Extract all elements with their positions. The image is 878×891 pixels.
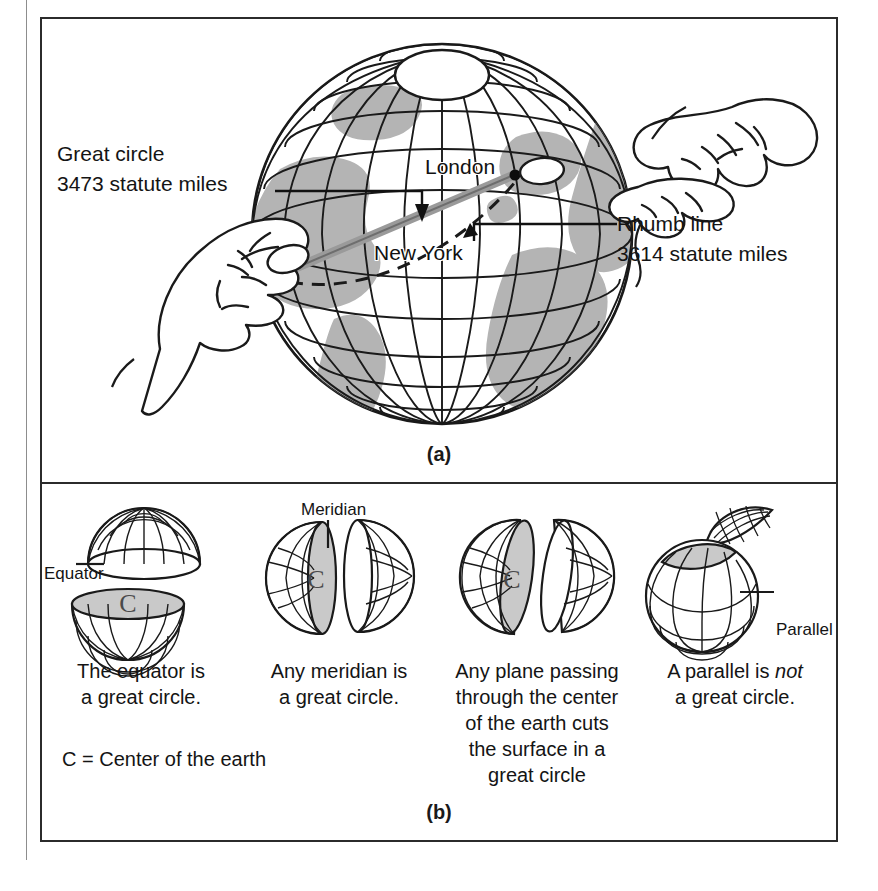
caption-line-1: A parallel is [667,660,775,682]
caption-line-4: the surface in a [469,738,606,760]
caption-line-2: a great circle. [279,686,399,708]
label-meridian: Meridian [301,500,366,520]
caption-line-5: great circle [488,764,586,786]
panel-b-cell-parallel: Parallel A parallel is not a great circl… [636,492,834,802]
caption-emphasis: not [775,660,803,682]
center-letter-c: C [503,565,520,594]
place-label-london: London [425,155,495,179]
caption-line-2: a great circle. [675,686,795,708]
panel-a-caption: (a) [42,443,836,466]
panel-b-caption: (b) [42,801,836,824]
globe-polar-mount [395,50,489,100]
center-letter-c: C [307,565,324,594]
panel-b-caption-parallel: A parallel is not a great circle. [636,658,834,710]
place-label-new-york: New York [374,241,463,265]
annotation-rhumb-line-line2: 3614 statute miles [617,239,787,269]
annotation-great-circle: Great circle 3473 statute miles [57,139,227,199]
label-parallel: Parallel [776,620,833,640]
caption-line-1: Any meridian is [271,660,408,682]
caption-line-2: a great circle. [81,686,201,708]
panel-b-cell-oblique: C Any plane passing throug [438,492,636,802]
panel-b-cell-meridian: C Meridian Any [240,492,438,802]
panel-b-caption-equator: The equator is a great circle. [42,658,240,710]
annotation-great-circle-line2: 3473 statute miles [57,169,227,199]
label-equator: Equator [44,564,104,584]
panel-b-caption-meridian: Any meridian is a great circle. [240,658,438,710]
city-dot-london [510,170,521,181]
annotation-great-circle-line1: Great circle [57,142,164,165]
caption-line-1: Any plane passing [455,660,618,682]
annotation-rhumb-line: Rhumb line 3614 statute miles [617,209,787,269]
caption-line-3: of the earth cuts [465,712,608,734]
panel-b-caption-oblique: Any plane passing through the center of … [438,658,636,788]
panel-b-legend-note: C = Center of the earth [62,748,266,771]
panel-a: Great circle 3473 statute miles Rhumb li… [42,19,836,482]
caption-line-1: The equator is [77,660,205,682]
panel-b: C Equator The equator is a great circle. [42,484,836,840]
globe-split-oblique-illustration: C [438,492,636,662]
center-letter-c: C [119,589,136,618]
caption-line-2: through the center [456,686,618,708]
annotation-rhumb-line-line1: Rhumb line [617,212,723,235]
page-gutter-rule [26,0,27,860]
